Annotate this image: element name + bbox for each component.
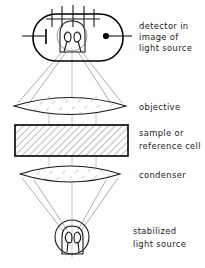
- ray-upper-right-outer: [82, 52, 122, 103]
- detector-filament-loop-right: [74, 32, 81, 42]
- sample-cell-hatch-group: [15, 125, 128, 156]
- label-sample-line2: reference cell: [139, 141, 201, 151]
- lamp-filament-leg-right: [78, 242, 79, 252]
- ray-bundle-condenser-source: [22, 178, 118, 231]
- label-detector-line1: detector in: [139, 21, 189, 31]
- lamp-filament-loop-left: [65, 232, 72, 243]
- lamp-filament-coil: [65, 232, 81, 252]
- detector-filament-loop-left: [64, 32, 71, 42]
- label-detector-line2: image of: [139, 32, 179, 42]
- detector-filament-coil: [64, 32, 81, 52]
- sample-cell-hatch: [15, 125, 128, 156]
- detector-assembly: [22, 5, 132, 61]
- detector-image-circle: [57, 21, 87, 51]
- ray-lower-left-outer: [22, 178, 63, 231]
- ray-lower-right-outer: [81, 178, 118, 231]
- label-group: detector in image of light source object…: [133, 21, 201, 249]
- detector-inner-image-group: [57, 21, 87, 52]
- label-sample-line1: sample or: [139, 128, 184, 138]
- ray-upper-right-inner: [78, 52, 110, 102]
- label-detector-line3: light source: [139, 43, 192, 53]
- detector-pin-group: [46, 5, 100, 27]
- ray-upper-left-outer: [18, 52, 62, 103]
- condenser-hatch-group: [16, 155, 126, 193]
- lamp-filament-leg-left: [67, 242, 68, 252]
- label-source-line2: light source: [133, 239, 186, 249]
- detector-filament-leg-right: [78, 41, 81, 52]
- label-source-line1: stabilized: [133, 226, 176, 236]
- label-condenser: condenser: [139, 170, 186, 180]
- sample-cell: [15, 125, 128, 156]
- ray-lower-right-inner: [78, 180, 106, 230]
- detector-filament-leg-left: [64, 41, 67, 52]
- label-objective: objective: [139, 102, 180, 112]
- lamp-filament-loop-right: [74, 232, 81, 243]
- ray-lower-left-inner: [34, 180, 67, 230]
- condenser-hatch: [16, 155, 126, 193]
- diagram-canvas: detector in image of light source object…: [0, 0, 205, 268]
- optical-diagram-figure: detector in image of light source object…: [0, 0, 205, 268]
- condenser-lens: [16, 155, 126, 193]
